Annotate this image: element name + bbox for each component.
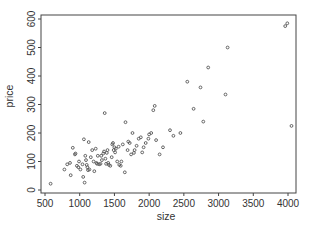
data-point — [141, 151, 144, 154]
data-point — [117, 145, 120, 148]
data-point — [139, 136, 142, 139]
data-point — [92, 160, 95, 163]
data-point — [144, 142, 147, 145]
data-point — [103, 112, 106, 115]
data-point — [104, 157, 107, 160]
data-point — [91, 149, 94, 152]
data-point — [162, 146, 165, 149]
x-tick-label: 500 — [37, 198, 54, 209]
scatter-chart: 5001000150020002500300035004000 01002003… — [0, 0, 310, 226]
data-point — [69, 174, 72, 177]
data-point — [81, 163, 84, 166]
data-point — [150, 132, 153, 135]
data-point — [226, 46, 229, 49]
data-point — [158, 153, 161, 156]
data-point — [126, 149, 129, 152]
x-tick-label: 2000 — [138, 198, 161, 209]
y-tick-label: 0 — [26, 187, 37, 193]
data-point — [202, 120, 205, 123]
data-point — [79, 168, 82, 171]
x-tick-label: 3000 — [207, 198, 230, 209]
data-point — [207, 66, 210, 69]
data-point — [135, 144, 138, 147]
data-point — [199, 86, 202, 89]
y-tick-label: 200 — [26, 124, 37, 141]
y-tick-label: 500 — [26, 39, 37, 56]
data-point — [103, 150, 106, 153]
scatter-points — [49, 22, 293, 185]
x-tick-label: 4000 — [277, 198, 300, 209]
data-point — [142, 146, 145, 149]
data-point — [131, 132, 134, 135]
data-point — [78, 160, 81, 163]
data-point — [284, 25, 287, 28]
y-axis-title: price — [3, 84, 15, 107]
data-point — [121, 143, 124, 146]
data-point — [224, 93, 227, 96]
data-point — [286, 22, 289, 25]
data-point — [169, 129, 172, 132]
data-point — [120, 160, 123, 163]
y-tick-label: 100 — [26, 153, 37, 170]
data-point — [94, 147, 97, 150]
data-point — [63, 168, 66, 171]
data-point — [82, 176, 85, 179]
x-tick-label: 2500 — [173, 198, 196, 209]
data-point — [85, 159, 88, 162]
data-point — [84, 154, 87, 157]
data-point — [186, 80, 189, 83]
data-point — [93, 170, 96, 173]
data-point — [124, 121, 127, 124]
data-point — [83, 138, 86, 141]
data-point — [49, 182, 52, 185]
x-tick-label: 1000 — [69, 198, 92, 209]
data-point — [66, 163, 69, 166]
data-point — [133, 149, 136, 152]
data-point — [179, 132, 182, 135]
data-point — [290, 125, 293, 128]
data-point — [69, 162, 72, 165]
data-point — [155, 139, 158, 142]
x-tick-label: 1500 — [103, 198, 126, 209]
y-tick-label: 300 — [26, 96, 37, 113]
data-point — [83, 181, 86, 184]
data-point — [153, 105, 156, 108]
y-tick-label: 400 — [26, 67, 37, 84]
data-point — [71, 146, 74, 149]
y-tick-label: 600 — [26, 10, 37, 27]
data-point — [147, 137, 150, 140]
data-point — [87, 141, 90, 144]
data-point — [114, 147, 117, 150]
data-point — [110, 156, 113, 159]
data-point — [123, 171, 126, 174]
data-point — [192, 107, 195, 110]
x-tick-label: 3500 — [242, 198, 265, 209]
data-point — [128, 142, 131, 145]
data-point — [96, 154, 99, 157]
data-point — [106, 149, 109, 152]
x-axis-title: size — [157, 210, 176, 222]
data-point — [130, 153, 133, 156]
data-point — [114, 151, 117, 154]
data-point — [172, 134, 175, 137]
y-axis: 0100200300400500600 — [26, 10, 41, 193]
x-axis: 5001000150020002500300035004000 — [37, 193, 300, 209]
data-point — [116, 160, 119, 163]
data-point — [101, 159, 104, 162]
data-point — [89, 156, 92, 159]
data-point — [152, 109, 155, 112]
